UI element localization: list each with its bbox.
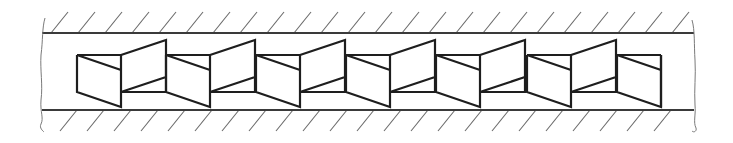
bottom-wall-hatching bbox=[60, 110, 671, 131]
hatch-line bbox=[303, 110, 320, 131]
hatch-line bbox=[87, 110, 104, 131]
hatch-line bbox=[411, 110, 428, 131]
plate-element bbox=[256, 40, 345, 107]
hatch-line bbox=[438, 110, 455, 131]
diagram-canvas bbox=[0, 0, 733, 143]
plate-front-face bbox=[77, 55, 121, 107]
inclined-plate-array bbox=[77, 40, 661, 107]
hatch-line bbox=[402, 12, 419, 33]
plate-inclined-panel bbox=[300, 40, 345, 92]
hatch-line bbox=[564, 12, 581, 33]
hatch-line bbox=[591, 12, 608, 33]
hatch-line bbox=[600, 110, 617, 131]
plate-front-face bbox=[346, 55, 390, 107]
plate-element bbox=[346, 40, 435, 107]
hatch-line bbox=[330, 110, 347, 131]
hatch-line bbox=[348, 12, 365, 33]
hatch-line bbox=[375, 12, 392, 33]
hatch-line bbox=[321, 12, 338, 33]
plate-front-face bbox=[617, 55, 661, 107]
channel-diagram bbox=[0, 0, 733, 143]
plate-element bbox=[617, 55, 661, 107]
hatch-line bbox=[654, 110, 671, 131]
plate-element bbox=[166, 40, 255, 107]
plate-inclined-panel bbox=[210, 40, 255, 92]
plate-front-face bbox=[527, 55, 571, 107]
hatch-line bbox=[510, 12, 527, 33]
hatch-line bbox=[294, 12, 311, 33]
hatch-line bbox=[519, 110, 536, 131]
hatch-line bbox=[672, 12, 689, 33]
hatch-line bbox=[159, 12, 176, 33]
plate-front-face bbox=[256, 55, 300, 107]
plate-element bbox=[527, 40, 616, 107]
hatch-line bbox=[276, 110, 293, 131]
plate-front-face bbox=[436, 55, 480, 107]
plate-inclined-panel bbox=[571, 40, 616, 92]
hatch-line bbox=[240, 12, 257, 33]
hatch-line bbox=[114, 110, 131, 131]
hatch-line bbox=[141, 110, 158, 131]
plate-front-face bbox=[166, 55, 210, 107]
hatch-line bbox=[186, 12, 203, 33]
hatch-line bbox=[456, 12, 473, 33]
right-break-line bbox=[692, 20, 696, 132]
hatch-line bbox=[51, 12, 68, 33]
hatch-line bbox=[132, 12, 149, 33]
hatch-line bbox=[465, 110, 482, 131]
hatch-line bbox=[222, 110, 239, 131]
hatch-line bbox=[537, 12, 554, 33]
hatch-line bbox=[627, 110, 644, 131]
hatch-line bbox=[384, 110, 401, 131]
hatch-line bbox=[357, 110, 374, 131]
hatch-line bbox=[195, 110, 212, 131]
hatch-line bbox=[213, 12, 230, 33]
hatch-line bbox=[267, 12, 284, 33]
hatch-line bbox=[546, 110, 563, 131]
hatch-line bbox=[492, 110, 509, 131]
hatch-line bbox=[483, 12, 500, 33]
hatch-line bbox=[618, 12, 635, 33]
hatch-line bbox=[105, 12, 122, 33]
hatch-line bbox=[573, 110, 590, 131]
plate-inclined-panel bbox=[121, 40, 166, 92]
plate-inclined-panel bbox=[480, 40, 525, 92]
hatch-line bbox=[249, 110, 266, 131]
plate-element bbox=[77, 40, 166, 107]
hatch-line bbox=[168, 110, 185, 131]
top-wall-hatching bbox=[51, 12, 689, 33]
hatch-line bbox=[60, 110, 77, 131]
hatch-line bbox=[78, 12, 95, 33]
hatch-line bbox=[645, 12, 662, 33]
plate-element bbox=[436, 40, 525, 107]
hatch-line bbox=[429, 12, 446, 33]
plate-inclined-panel bbox=[390, 40, 435, 92]
left-break-line bbox=[40, 18, 45, 132]
